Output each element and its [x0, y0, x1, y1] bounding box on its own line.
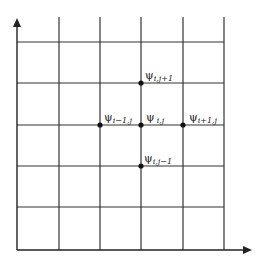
label-center: ψi,j	[146, 111, 165, 125]
label-top: ψi,j+1	[145, 69, 173, 83]
stencil-diagram: ψi,j+1 ψi−1,j ψi,j ψi+1,j ψi,j−1	[0, 0, 261, 268]
label-bottom: ψi,j−1	[144, 152, 172, 166]
label-right: ψi+1,j	[189, 111, 218, 125]
up-arrow-icon	[13, 18, 21, 27]
label-left: ψi−1,j	[104, 111, 133, 125]
point-center	[138, 122, 143, 127]
point-top	[138, 80, 143, 85]
axes	[17, 26, 244, 250]
point-bottom	[138, 163, 143, 168]
point-right	[180, 122, 185, 127]
right-arrow-icon	[243, 246, 252, 254]
grid-lines	[17, 17, 224, 250]
point-left	[97, 122, 102, 127]
